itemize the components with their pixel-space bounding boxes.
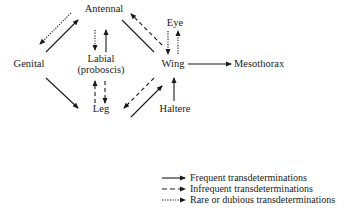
node-leg: Leg [88,103,114,114]
node-genital: Genital [8,58,50,69]
node-labial: Labial (proboscis) [72,53,130,75]
node-antennal: Antennal [80,3,128,14]
arrow-antennal-to-genital [40,13,71,44]
node-wing: Wing [158,58,188,69]
arrow-genital-to-leg [46,78,78,108]
node-labial-name: Labial [72,53,130,64]
arrow-wing-to-leg [124,78,154,108]
legend-label-rare: Rare or dubious transdeterminations [190,194,335,205]
arrow-antennal-to-wing [122,20,154,52]
legend-label-infrequent: Infrequent transdeterminations [190,183,313,194]
node-labial-subtitle: (proboscis) [72,64,130,75]
node-haltere: Haltere [155,103,195,114]
node-mesothorax: Mesothorax [234,58,294,69]
node-eye: Eye [163,17,187,28]
legend-label-frequent: Frequent transdeterminations [190,172,307,183]
arrow-wing-to-antennal [131,14,162,45]
arrow-genital-to-antennal [46,20,78,52]
